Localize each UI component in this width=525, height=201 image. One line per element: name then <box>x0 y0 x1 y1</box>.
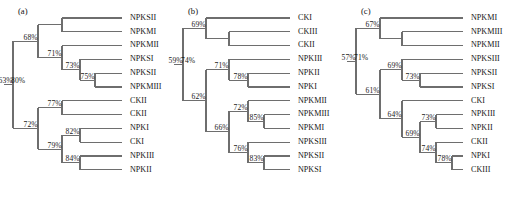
support-value: 79% <box>48 141 63 150</box>
support-value: 64% <box>388 110 403 119</box>
support-value: 83% <box>250 154 265 163</box>
leaf-label: NPKMIII <box>298 109 330 118</box>
tree-branches <box>4 18 122 170</box>
support-value: 59% <box>169 56 184 65</box>
leaf-labels: CKICKIIICKIINPKIIINPKIINPKINPKMIINPKMIII… <box>298 13 330 174</box>
leaf-label: CKIII <box>298 27 318 36</box>
dendrogram-svg-c: NPKMINPKMIIINPKMIINPKSIIINPKSIINPKSICKIN… <box>350 0 525 201</box>
leaf-label: NPKI <box>130 123 149 132</box>
leaf-label: NPKMII <box>471 40 500 49</box>
root-support-value: 74% <box>181 56 196 65</box>
support-value: 73% <box>66 61 81 70</box>
support-values: 80%75%73%71%68%77%82%84%79%72%63% <box>0 33 95 164</box>
leaf-label: NPKII <box>471 123 493 132</box>
support-value: 76% <box>234 144 249 153</box>
support-value: 72% <box>234 103 249 112</box>
support-value: 73% <box>406 72 421 81</box>
support-value: 69% <box>406 129 421 138</box>
dendrogram-panel-c: NPKMINPKMIIINPKMIINPKSIIINPKSIINPKSICKIN… <box>350 0 525 201</box>
dendrogram-svg-b: CKICKIIICKIINPKIIINPKIINPKINPKMIINPKMIII… <box>176 0 352 201</box>
root-support-value: 80% <box>11 76 26 85</box>
leaf-label: NPKMI <box>471 13 497 22</box>
support-value: 73% <box>422 113 437 122</box>
leaf-label: NPKI <box>471 151 490 160</box>
leaf-label: NPKI <box>298 82 317 91</box>
support-value: 78% <box>438 154 453 163</box>
support-value: 77% <box>48 99 63 108</box>
leaf-label: NPKMII <box>130 40 159 49</box>
support-value: 61% <box>366 86 381 95</box>
support-values: 71%67%73%69%73%78%74%69%64%61%57% <box>342 20 453 164</box>
leaf-label: NPKSIII <box>298 137 327 146</box>
leaf-label: CKI <box>298 13 312 22</box>
support-value: 67% <box>366 20 381 29</box>
leaf-labels: NPKMINPKMIIINPKMIINPKSIIINPKSIINPKSICKIN… <box>471 13 503 174</box>
support-value: 62% <box>192 92 207 101</box>
support-value: 66% <box>215 123 230 132</box>
leaf-label: NPKIII <box>298 54 323 63</box>
leaf-label: NPKIII <box>130 151 155 160</box>
dendrogram-svg-a: NPKSIINPKMINPKMIINPKSINPKSIINPKMIIICKIIC… <box>0 0 176 201</box>
leaf-label: NPKSI <box>298 165 322 174</box>
support-value: 63% <box>0 76 13 85</box>
panel-tag-c: (c) <box>361 6 371 16</box>
leaf-label: NPKII <box>130 165 152 174</box>
leaf-labels: NPKSIINPKMINPKMIINPKSINPKSIINPKMIIICKIIC… <box>130 13 162 174</box>
dendrogram-panel-b: CKICKIIICKIINPKIIINPKIINPKINPKMIINPKMIII… <box>176 0 350 201</box>
support-value: 84% <box>66 154 81 163</box>
leaf-label: NPKSIII <box>471 54 500 63</box>
panel-tag-a: (a) <box>18 6 28 16</box>
support-value: 71% <box>48 49 63 58</box>
dendrogram-panel-a: NPKSIINPKMINPKMIINPKSINPKSIINPKMIIICKIIC… <box>0 0 176 201</box>
support-value: 71% <box>215 61 230 70</box>
leaf-label: NPKSII <box>298 151 324 160</box>
leaf-label: NPKSII <box>130 13 156 22</box>
leaf-label: NPKSII <box>471 68 497 77</box>
leaf-label: NPKSI <box>471 82 495 91</box>
leaf-label: NPKIII <box>471 109 496 118</box>
leaf-label: CKI <box>130 137 144 146</box>
leaf-label: NPKSII <box>130 68 156 77</box>
leaf-label: CKII <box>130 96 147 105</box>
leaf-label: CKIII <box>471 165 491 174</box>
leaf-label: CKII <box>130 109 147 118</box>
root-support-value: 71% <box>354 53 369 62</box>
support-value: 75% <box>81 72 96 81</box>
leaf-label: CKII <box>298 40 315 49</box>
support-value: 69% <box>388 61 403 70</box>
support-value: 85% <box>250 113 265 122</box>
leaf-label: NPKMI <box>130 27 156 36</box>
leaf-label: NPKMII <box>298 96 327 105</box>
support-value: 74% <box>422 144 437 153</box>
leaf-label: NPKMI <box>298 123 324 132</box>
support-value: 57% <box>342 53 357 62</box>
support-value: 78% <box>234 72 249 81</box>
support-value: 69% <box>192 20 207 29</box>
leaf-label: NPKMIII <box>471 27 503 36</box>
support-value: 68% <box>24 33 39 42</box>
panel-tag-b: (b) <box>188 6 198 16</box>
leaf-label: NPKMIII <box>130 82 162 91</box>
support-value: 72% <box>24 120 39 129</box>
leaf-label: CKII <box>471 137 488 146</box>
tree-branches <box>347 18 463 170</box>
leaf-label: NPKII <box>298 68 320 77</box>
leaf-label: NPKSI <box>130 54 154 63</box>
leaf-label: CKI <box>471 96 485 105</box>
support-value: 82% <box>66 127 81 136</box>
dendrogram-figure: NPKSIINPKMINPKMIINPKSINPKSIINPKMIIICKIIC… <box>0 0 525 201</box>
